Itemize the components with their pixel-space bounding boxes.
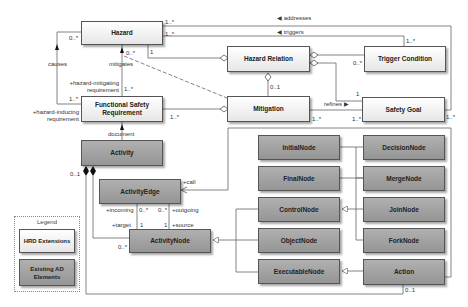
legend-title: Legend xyxy=(15,219,79,225)
role-outgoing: +outgoing xyxy=(172,207,199,214)
mult-node-source: 1 xyxy=(164,222,167,229)
role-hazard-mitigating: +hazard-mitigatingrequirement xyxy=(60,80,119,94)
mult-edge-outgoing: 0..* xyxy=(158,207,167,214)
mult-activity-comp: 0..1 xyxy=(70,171,80,178)
class-merge-node: MergeNode xyxy=(363,166,445,191)
legend-label: HRD Extensions xyxy=(24,237,71,245)
role-text: +hazard-inducing xyxy=(20,109,79,116)
class-label: Safety Goal xyxy=(386,106,422,114)
class-label: ActivityEdge xyxy=(120,188,159,196)
class-hazard: Hazard xyxy=(81,21,163,45)
assoc-addresses-label: ◀ addresses xyxy=(277,15,311,22)
class-activity-node: ActivityNode xyxy=(129,229,211,253)
class-label: Functional Safety xyxy=(95,101,149,109)
class-label: JoinNode xyxy=(389,206,419,214)
mult-safety-goal-refines: 1..* xyxy=(352,116,361,123)
class-decision-node: DecisionNode xyxy=(363,135,445,160)
mult-safety-goal-hr: 1 xyxy=(356,91,359,98)
class-label: ForkNode xyxy=(389,237,419,245)
mult-edge-incoming: 0..* xyxy=(139,207,148,214)
class-label: Mitigation xyxy=(253,105,284,113)
mult-trigger-top: 1..* xyxy=(406,38,415,45)
class-label: InitialNode xyxy=(282,144,315,152)
class-label: Hazard Relation xyxy=(244,55,293,63)
role-hazard-inducing: +hazard-inducingrequirement xyxy=(20,109,79,123)
assoc-mitigates-label: mitigates xyxy=(109,61,133,68)
class-label: FinalNode xyxy=(283,175,314,183)
legend-label: Existing AD xyxy=(30,265,63,273)
mult-mitigation-hr: 0..1 xyxy=(270,84,280,91)
class-fork-node: ForkNode xyxy=(363,228,445,253)
class-executable-node: ExecutableNode xyxy=(258,259,340,284)
class-object-node: ObjectNode xyxy=(258,228,340,253)
class-label: Requirement xyxy=(102,109,142,117)
legend-hrd-extensions: HRD Extensions xyxy=(19,229,75,253)
assoc-document-label: document xyxy=(108,131,134,138)
mult-mitigation-refines: 1..* xyxy=(312,116,321,123)
class-label: Activity xyxy=(110,149,133,157)
class-label: MergeNode xyxy=(386,175,421,183)
assoc-refines-label: refines ▶ xyxy=(324,101,349,108)
mult-fsr-mitigates: 1..* xyxy=(124,86,133,93)
class-join-node: JoinNode xyxy=(363,197,445,222)
class-activity: Activity xyxy=(81,140,163,166)
class-initial-node: InitialNode xyxy=(258,135,340,160)
class-label: DecisionNode xyxy=(382,144,425,152)
class-label: ActivityNode xyxy=(150,237,190,245)
mult-hazard-triggers: 1..* xyxy=(165,31,174,38)
role-call: +call xyxy=(183,179,196,186)
role-source: +source xyxy=(172,222,194,229)
class-label: ControlNode xyxy=(279,206,318,214)
mult-fsr-causes: 1..* xyxy=(69,96,78,103)
role-text: +hazard-mitigating xyxy=(60,80,119,87)
class-functional-safety-requirement: Functional SafetyRequirement xyxy=(81,96,163,122)
mult-action-activity: 0..1 xyxy=(405,287,415,294)
mult-hazard-mitigates: 0..* xyxy=(126,50,135,57)
role-text: requirement xyxy=(20,116,79,123)
class-safety-goal: Safety Goal xyxy=(362,97,445,122)
mult-trigger-hr: 0..* xyxy=(353,60,362,67)
mult-node-target: 1 xyxy=(140,222,143,229)
class-control-node: ControlNode xyxy=(258,197,340,222)
mult-hazard-addresses: 1..* xyxy=(165,19,174,26)
class-trigger-condition: Trigger Condition xyxy=(364,46,446,72)
assoc-triggers-label: ◀ triggers xyxy=(277,29,304,36)
role-target: +target xyxy=(112,222,131,229)
mult-hazard-relation-one: 1 xyxy=(150,49,153,56)
mult-safety-goal-addresses: 1..* xyxy=(446,114,455,121)
mult-node-comp: 0..* xyxy=(118,244,127,251)
class-final-node: FinalNode xyxy=(258,166,340,191)
class-hazard-relation: Hazard Relation xyxy=(227,46,310,72)
class-label: Hazard xyxy=(111,29,133,37)
class-label: Action xyxy=(394,268,414,276)
class-mitigation: Mitigation xyxy=(227,96,310,122)
assoc-causes-label: causes xyxy=(48,61,67,68)
role-text: requirement xyxy=(60,87,119,94)
class-label: ExecutableNode xyxy=(274,268,325,276)
legend-label: Elements xyxy=(34,273,61,281)
class-label: ObjectNode xyxy=(281,237,317,245)
legend-existing-ad-elements: Existing ADElements xyxy=(19,259,75,286)
class-action: Action xyxy=(363,259,445,285)
class-activity-edge: ActivityEdge xyxy=(99,179,181,204)
mult-hazard-causes: 0..* xyxy=(69,35,78,42)
mult-fsr-hr: 1..* xyxy=(170,114,179,121)
role-incoming: +incoming xyxy=(106,207,134,214)
class-label: Trigger Condition xyxy=(378,55,432,63)
